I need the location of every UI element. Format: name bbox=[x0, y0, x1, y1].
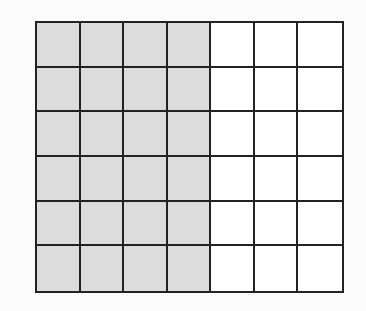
grid-cell-unshaded bbox=[211, 23, 255, 68]
grid-cell-shaded bbox=[37, 246, 81, 291]
grid-cell-unshaded bbox=[211, 246, 255, 291]
grid-cell-shaded bbox=[168, 157, 212, 202]
grid-cell-shaded bbox=[168, 23, 212, 68]
grid-cell-shaded bbox=[81, 23, 125, 68]
grid-cell-shaded bbox=[124, 157, 168, 202]
grid-cell-shaded bbox=[168, 68, 212, 113]
grid-cell-shaded bbox=[168, 246, 212, 291]
grid-cell-shaded bbox=[168, 112, 212, 157]
grid-cell-shaded bbox=[37, 157, 81, 202]
grid-cell-unshaded bbox=[255, 23, 299, 68]
grid-cell-shaded bbox=[81, 157, 125, 202]
grid-cell-unshaded bbox=[255, 246, 299, 291]
grid-cell-shaded bbox=[81, 202, 125, 247]
grid-cell-shaded bbox=[168, 202, 212, 247]
grid-cell-unshaded bbox=[298, 23, 342, 68]
grid-cell-shaded bbox=[124, 68, 168, 113]
grid-cell-shaded bbox=[37, 23, 81, 68]
grid-cell-unshaded bbox=[255, 112, 299, 157]
grid-cell-shaded bbox=[37, 112, 81, 157]
grid-cell-unshaded bbox=[211, 112, 255, 157]
grid-cell-unshaded bbox=[298, 68, 342, 113]
grid-cell-unshaded bbox=[211, 202, 255, 247]
grid-cell-shaded bbox=[37, 68, 81, 113]
grid-cell-unshaded bbox=[298, 112, 342, 157]
grid-cell-unshaded bbox=[255, 157, 299, 202]
grid-cell-unshaded bbox=[211, 157, 255, 202]
grid-cell-shaded bbox=[124, 112, 168, 157]
grid-cell-shaded bbox=[124, 246, 168, 291]
grid-cell-unshaded bbox=[298, 157, 342, 202]
grid-cell-unshaded bbox=[211, 68, 255, 113]
grid-cell-unshaded bbox=[255, 202, 299, 247]
grid-cell-shaded bbox=[124, 202, 168, 247]
shaded-grid-diagram bbox=[35, 21, 344, 293]
grid-cell-unshaded bbox=[298, 246, 342, 291]
grid-cell-shaded bbox=[124, 23, 168, 68]
grid-cell-shaded bbox=[81, 246, 125, 291]
grid-cell-shaded bbox=[37, 202, 81, 247]
grid-cell-shaded bbox=[81, 112, 125, 157]
grid-cell-shaded bbox=[81, 68, 125, 113]
grid-cell-unshaded bbox=[255, 68, 299, 113]
grid-cell-unshaded bbox=[298, 202, 342, 247]
